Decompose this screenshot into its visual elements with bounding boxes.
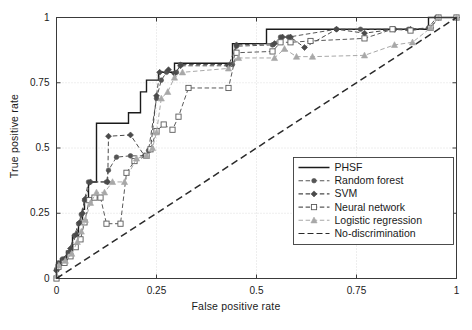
legend-label-svm[interactable]: SVM (335, 187, 465, 199)
x-tick-label: 0.25 (137, 285, 177, 296)
x-tick-label: 0 (37, 285, 77, 296)
legend-marker-square-open (311, 205, 316, 210)
x-tick-label: 1 (437, 285, 472, 296)
legend-label-phsf[interactable]: PHSF (335, 161, 465, 173)
y-tick-label: 0.25 (10, 207, 50, 218)
legend-label-neural-network[interactable]: Neural network (335, 201, 465, 213)
y-tick-label: 1 (10, 12, 50, 23)
y-tick-label: 0.75 (10, 77, 50, 88)
y-tick-label: 0 (10, 273, 50, 284)
roc-figure: True positive rate False positive rate 0… (0, 0, 472, 330)
y-axis-label: True positive rate (8, 76, 20, 196)
x-tick-label: 0.75 (337, 285, 377, 296)
legend-label-random-forest[interactable]: Random forest (335, 174, 465, 186)
caption-ghost-sliver (18, 321, 454, 328)
x-tick-label: 0.5 (237, 285, 277, 296)
x-axis-label: False positive rate (0, 300, 472, 312)
legend-label-logistic-regression[interactable]: Logistic regression (335, 214, 465, 226)
legend-label-no-discrimination[interactable]: No-discrimination (335, 227, 465, 239)
legend-marker-circle-filled (312, 178, 317, 183)
y-tick-label: 0.5 (10, 142, 50, 153)
